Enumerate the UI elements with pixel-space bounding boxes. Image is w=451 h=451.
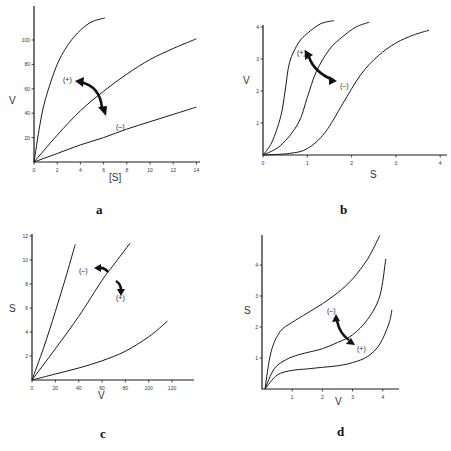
curve-right: [263, 30, 429, 155]
y-tick-label: 3: [256, 56, 259, 62]
panel-d-x-label: V: [335, 396, 342, 407]
panel-b: 012341234 (+) (–) V S b: [243, 21, 447, 217]
panel-a-double-arrow-icon: [80, 82, 102, 108]
x-tick-label: 40: [76, 385, 82, 391]
x-tick-label: 0: [33, 167, 36, 173]
curve-steep: [32, 244, 75, 380]
panel-c-arrow-down-icon: [116, 281, 121, 290]
y-tick-label: 4: [255, 262, 258, 268]
y-tick-label: 100: [22, 37, 31, 43]
panel-c-annotation-minus: (–): [79, 267, 88, 275]
panel-d: 12341234 (–) (+) S V d: [244, 235, 399, 439]
x-tick-label: 0: [262, 160, 265, 166]
panel-d-annotation-minus: (–): [327, 307, 336, 315]
x-tick-label: 80: [123, 385, 129, 391]
panel-c-x-label: V: [98, 390, 105, 401]
panel-c: 02040608010012024681012 (–) (+) S V c: [9, 233, 194, 441]
panel-a-y-label: V: [9, 95, 16, 106]
y-tick-label: 8: [25, 281, 28, 287]
y-tick-label: 2: [25, 353, 28, 359]
y-tick-label: 20: [24, 135, 30, 141]
y-tick-label: 12: [22, 233, 28, 239]
curve-middle: [265, 259, 386, 389]
x-tick-label: 3: [395, 160, 398, 166]
y-tick-label: 1: [256, 120, 259, 126]
x-tick-label: 12: [170, 167, 176, 173]
y-tick-label: 1: [255, 355, 258, 361]
x-tick-label: 0: [31, 385, 34, 391]
panel-b-arrowhead-down-icon: [329, 76, 337, 85]
x-tick-label: 2: [350, 160, 353, 166]
panel-a-x-label: [S]: [109, 172, 121, 183]
x-tick-label: 1: [291, 394, 294, 400]
x-tick-label: 4: [79, 167, 82, 173]
panel-c-y-label: S: [9, 303, 16, 314]
panel-c-curves: [32, 243, 167, 380]
x-tick-label: 100: [145, 385, 154, 391]
curve-shallow: [32, 321, 167, 380]
panel-a-annotation-minus: (–): [116, 123, 125, 131]
x-tick-label: 8: [125, 167, 128, 173]
panel-d-arrowhead-up-icon: [332, 314, 340, 322]
y-tick-label: 80: [24, 61, 30, 67]
panel-d-annotation-plus: (+): [357, 345, 366, 353]
curve-middle: [263, 22, 369, 155]
curve-upper: [265, 236, 380, 390]
panel-b-label: b: [340, 202, 347, 217]
panel-a-label: a: [96, 202, 103, 217]
panel-c-arrowhead-left-icon: [94, 264, 101, 272]
panel-b-annotation-minus: (–): [340, 82, 349, 90]
panel-d-label: d: [337, 424, 345, 439]
panel-b-y-label: V: [243, 75, 250, 86]
x-tick-label: 2: [56, 167, 59, 173]
y-tick-label: 2: [256, 88, 259, 94]
panel-c-axes: 02040608010012024681012: [22, 233, 194, 391]
x-tick-label: 120: [168, 385, 177, 391]
y-tick-label: 40: [24, 110, 30, 116]
panel-a-arrowhead-down-icon: [98, 106, 107, 116]
panel-a: 0246810121420406080100 (+) (–) V [S] a: [9, 6, 200, 217]
panel-a-axis-lines: [34, 6, 200, 162]
x-tick-label: 20: [53, 385, 59, 391]
y-tick-label: 60: [24, 86, 30, 92]
panel-b-annotation-plus: (+): [297, 49, 306, 57]
x-tick-label: 14: [194, 167, 200, 173]
panel-a-arrowhead-up-icon: [75, 77, 84, 87]
panel-b-x-label: S: [370, 169, 377, 180]
x-tick-label: 3: [351, 394, 354, 400]
panel-c-label: c: [100, 426, 106, 441]
curve-middle: [34, 39, 196, 162]
y-tick-label: 4: [256, 24, 259, 30]
panel-d-y-label: S: [244, 305, 251, 316]
panel-a-curves: [34, 18, 196, 162]
x-tick-label: 4: [381, 394, 384, 400]
panel-d-double-arrow-icon: [337, 321, 349, 340]
y-tick-label: 3: [255, 293, 258, 299]
y-tick-label: 6: [25, 305, 28, 311]
x-tick-label: 2: [321, 394, 324, 400]
curve-lower: [265, 310, 392, 389]
x-tick-label: 1: [306, 160, 309, 166]
panel-c-annotation-plus: (+): [116, 294, 125, 302]
y-tick-label: 10: [22, 257, 28, 263]
curve-middle: [32, 243, 130, 380]
y-tick-label: 4: [25, 329, 28, 335]
panel-a-annotation-plus: (+): [63, 76, 72, 84]
x-tick-label: 10: [147, 167, 153, 173]
x-tick-label: 4: [439, 160, 442, 166]
y-tick-label: 2: [255, 324, 258, 330]
figure-four-panel-kinetics: 0246810121420406080100 (+) (–) V [S] a 0…: [0, 0, 451, 451]
x-tick-label: 6: [102, 167, 105, 173]
